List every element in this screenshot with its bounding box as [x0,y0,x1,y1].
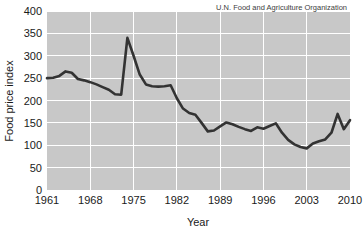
x-tick-1982: 1982 [165,194,189,206]
x-tick-1996: 1996 [251,194,275,206]
source-annotation: U.N. Food and Agriculture Organization [216,3,347,12]
x-tick-2003: 2003 [294,194,318,206]
y-axis-title: Food price index [3,60,15,142]
food-price-index-chart: 050100150200250300350400 196119681975198… [0,0,363,231]
x-tick-1989: 1989 [208,194,232,206]
y-tick-100: 100 [24,139,42,151]
chart-svg: 050100150200250300350400 196119681975198… [0,0,363,231]
y-tick-400: 400 [24,5,42,17]
y-tick-150: 150 [24,117,42,129]
x-tick-2010: 2010 [338,194,362,206]
x-axis-title: Year [187,216,210,228]
y-tick-300: 300 [24,50,42,62]
x-tick-1975: 1975 [121,194,145,206]
y-tick-50: 50 [30,162,42,174]
y-tick-350: 350 [24,27,42,39]
y-tick-250: 250 [24,72,42,84]
x-tick-1961: 1961 [35,194,59,206]
x-tick-1968: 1968 [78,194,102,206]
y-tick-200: 200 [24,95,42,107]
